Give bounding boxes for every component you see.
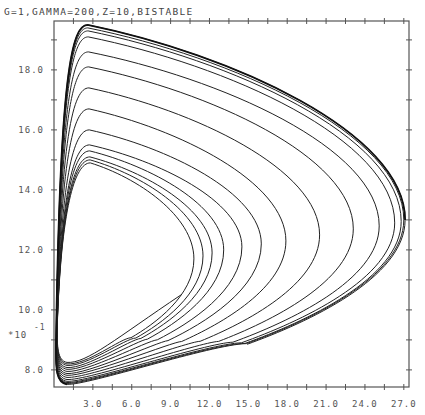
plot-frame bbox=[54, 21, 409, 387]
y-tick-label: 8.0 bbox=[25, 365, 44, 375]
limit-cycle-outer bbox=[56, 25, 405, 384]
x-tick-label: 9.0 bbox=[161, 399, 180, 409]
plot-border bbox=[54, 21, 409, 387]
x-tick-label: 15.0 bbox=[235, 399, 261, 409]
y-tick-label: 18.0 bbox=[18, 65, 44, 75]
x-tick-label: 3.0 bbox=[83, 399, 102, 409]
y-tick-label: 10.0 bbox=[18, 305, 44, 315]
trajectory-curves bbox=[56, 25, 405, 384]
x-tick-label: 24.0 bbox=[352, 399, 378, 409]
y-tick-label: 14.0 bbox=[18, 185, 44, 195]
spiral-trajectory bbox=[56, 25, 405, 384]
y-tick-label: 12.0 bbox=[18, 245, 44, 255]
x-tick-label: 21.0 bbox=[313, 399, 339, 409]
y-tick-label: 16.0 bbox=[18, 125, 44, 135]
x-tick-label: 6.0 bbox=[122, 399, 141, 409]
x-axis-tick-labels: 3.06.09.012.015.018.021.024.027.0 bbox=[83, 399, 416, 409]
phase-plot: G=1,GAMMA=200,Z=10,BISTABLE 3.06.09.012.… bbox=[0, 0, 425, 415]
y-scale-exponent: -1 bbox=[34, 323, 46, 332]
x-tick-label: 18.0 bbox=[274, 399, 300, 409]
x-tick-label: 12.0 bbox=[197, 399, 223, 409]
chart-title: G=1,GAMMA=200,Z=10,BISTABLE bbox=[4, 6, 194, 17]
y-scale-base: *10 bbox=[8, 330, 27, 340]
x-tick-label: 27.0 bbox=[391, 399, 417, 409]
